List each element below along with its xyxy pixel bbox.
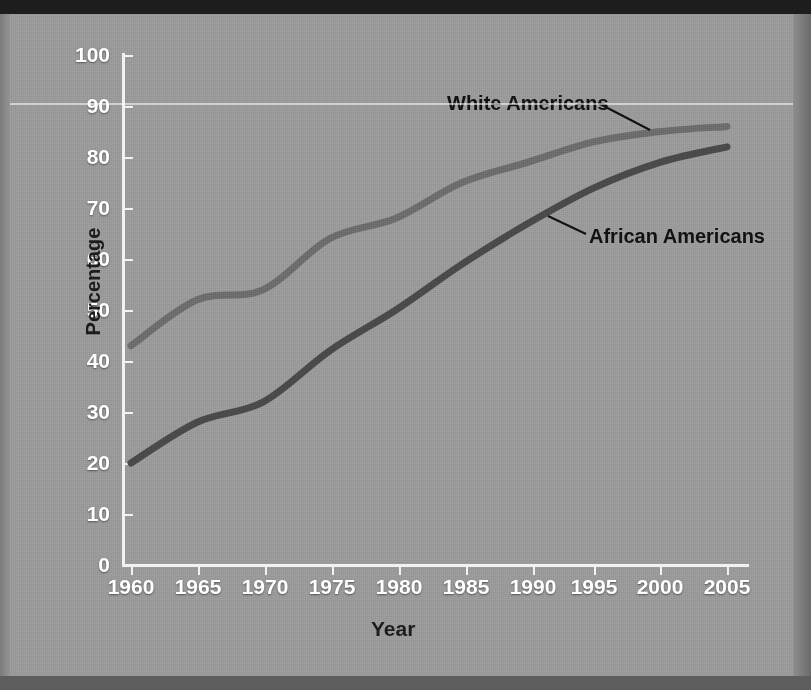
scan-edge-right xyxy=(793,14,811,676)
scan-edge-bottom xyxy=(0,676,811,690)
series-label-african-americans: African Americans xyxy=(589,225,765,248)
scan-artifact-line xyxy=(0,103,811,105)
scan-edge-top xyxy=(0,0,811,14)
x-axis-title: Year xyxy=(371,617,491,641)
y-axis-title: Percentage xyxy=(82,217,105,347)
line-african-americans xyxy=(131,147,727,463)
leader-line-african xyxy=(548,216,586,234)
scan-edge-left xyxy=(0,14,10,676)
scanned-chart-page: 0 10 20 30 40 50 60 70 80 90 100 1960 19… xyxy=(0,0,811,690)
